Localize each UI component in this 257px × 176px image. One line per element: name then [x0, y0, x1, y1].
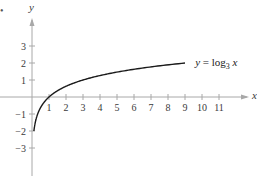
y-axis-label: y [28, 1, 34, 13]
x-tick-label: 4 [98, 102, 103, 113]
x-tick-label: 11 [214, 102, 224, 113]
x-tick-label: 2 [64, 102, 69, 113]
y-tick-label: 3 [21, 41, 26, 52]
x-axis-label: x [251, 89, 257, 101]
log-graph: xy1234567891011−3−2−1123y = log3 x [0, 0, 257, 176]
x-tick-label: 8 [166, 102, 171, 113]
x-tick-label: 7 [149, 102, 154, 113]
x-tick-label: 6 [132, 102, 137, 113]
y-tick-label: −1 [15, 109, 26, 120]
y-tick-label: 2 [21, 58, 26, 69]
function-label: y = log3 x [194, 56, 237, 71]
y-axis-arrow-icon [30, 18, 35, 26]
x-axis-arrow-icon [241, 95, 249, 100]
x-tick-label: 10 [197, 102, 207, 113]
y-tick-label: −2 [15, 126, 26, 137]
x-tick-label: 5 [115, 102, 120, 113]
y-tick-label: −3 [15, 143, 26, 154]
y-tick-label: 1 [21, 75, 26, 86]
x-tick-label: 1 [47, 102, 52, 113]
x-tick-label: 9 [183, 102, 188, 113]
x-tick-label: 3 [81, 102, 86, 113]
